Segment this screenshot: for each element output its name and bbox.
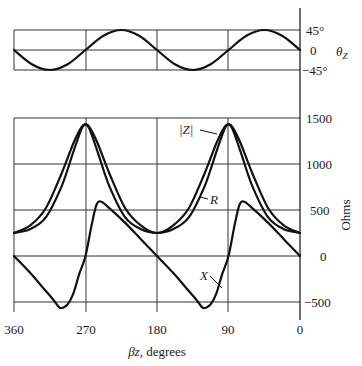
r-annotation: R bbox=[209, 192, 218, 207]
z-annotation: |Z| bbox=[179, 122, 193, 137]
ohms-tick-1000: 1000 bbox=[306, 157, 332, 172]
x-tick-0: 0 bbox=[297, 322, 304, 337]
x-annotation: X bbox=[199, 268, 209, 283]
ohms-tick-500: 500 bbox=[310, 203, 330, 218]
z-leader bbox=[200, 130, 217, 134]
ohms-tick-0: 0 bbox=[320, 249, 327, 264]
theta-tick-45: 45° bbox=[306, 23, 324, 38]
ohms-tick-1500: 1500 bbox=[306, 111, 332, 126]
theta-tick-neg45: −45° bbox=[302, 63, 328, 78]
x-tick-90: 90 bbox=[222, 322, 235, 337]
theta-tick-0: 0 bbox=[310, 43, 317, 58]
x-tick-360: 360 bbox=[4, 322, 24, 337]
theta-axis-label: θZ bbox=[336, 44, 348, 61]
ohms-axis-label: Ohms bbox=[338, 199, 353, 230]
ohms-grid bbox=[14, 118, 300, 312]
ohms-tick-neg500: −500 bbox=[304, 295, 331, 310]
chart-canvas: 45° 0 −45° θZ 1500 1000 500 0 −500 Ohms … bbox=[0, 0, 362, 366]
r-leader bbox=[200, 197, 208, 199]
x-tick-270: 270 bbox=[76, 322, 96, 337]
x-axis-label: βz, degrees bbox=[127, 344, 186, 359]
x-tick-180: 180 bbox=[147, 322, 167, 337]
